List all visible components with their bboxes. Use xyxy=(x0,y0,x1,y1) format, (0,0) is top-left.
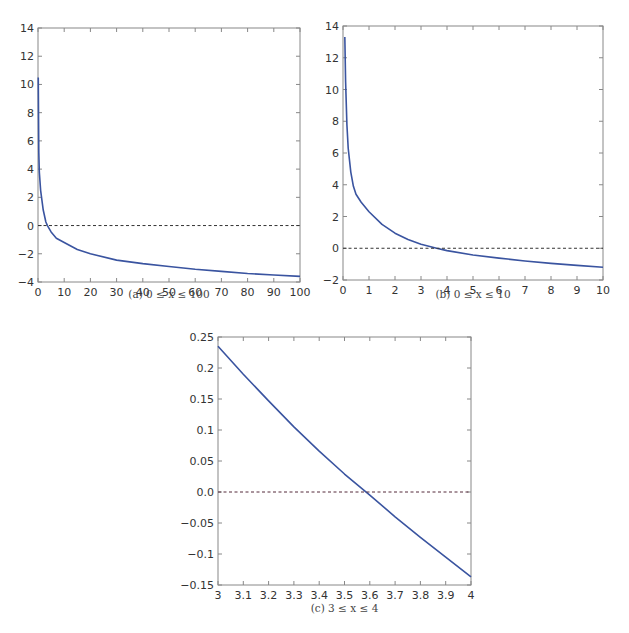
panel-a: 0102030405060708090100 −4−202468101214 (… xyxy=(18,22,311,300)
y-tick-label: −2 xyxy=(18,248,34,261)
x-tick-label: 1 xyxy=(366,284,373,297)
figure-canvas: 0102030405060708090100 −4−202468101214 (… xyxy=(0,0,629,633)
x-tick-label: 0 xyxy=(340,284,347,297)
y-tick-labels-c: −0.15−0.1−0.050.00.050.10.150.20.25 xyxy=(180,331,214,592)
x-tick-label: 8 xyxy=(548,284,555,297)
y-tick-label: 0.2 xyxy=(197,362,215,375)
x-tick-label: 3.5 xyxy=(336,589,354,602)
y-tick-label: −0.1 xyxy=(187,548,214,561)
function-curve xyxy=(218,346,471,577)
y-tick-label: −0.05 xyxy=(180,517,214,530)
plot-frame-a xyxy=(38,28,300,282)
function-curve xyxy=(38,77,300,276)
caption-a: (a) 0 ≤ x ≤ 100 xyxy=(128,288,209,300)
y-tick-label: −4 xyxy=(18,276,34,289)
y-tick-label: −0.15 xyxy=(180,579,214,592)
caption-b: (b) 0 ≤ x ≤ 10 xyxy=(435,288,510,300)
panel-c: 33.13.23.33.43.53.63.73.83.94 −0.15−0.1−… xyxy=(180,331,474,614)
x-tick-label: 3.1 xyxy=(235,589,253,602)
series-b xyxy=(343,37,603,267)
x-tick-label: 3.4 xyxy=(310,589,328,602)
plot-frame-b xyxy=(343,26,603,280)
x-tick-label: 80 xyxy=(241,286,255,299)
x-tick-labels-c: 33.13.23.33.43.53.63.73.83.94 xyxy=(215,589,475,602)
x-tick-label: 3 xyxy=(215,589,222,602)
x-tick-label: 90 xyxy=(267,286,281,299)
x-tick-label: 9 xyxy=(574,284,581,297)
y-tick-label: 2 xyxy=(27,191,34,204)
caption-c: (c) 3 ≤ x ≤ 4 xyxy=(311,602,379,614)
x-tick-label: 3.2 xyxy=(260,589,278,602)
ticks-b xyxy=(343,26,603,280)
x-tick-label: 3.7 xyxy=(386,589,404,602)
y-tick-label: 4 xyxy=(27,163,34,176)
y-tick-label: 0.0 xyxy=(197,486,215,499)
x-tick-label: 3.3 xyxy=(285,589,303,602)
y-tick-label: −2 xyxy=(323,274,339,287)
y-tick-label: 10 xyxy=(20,78,34,91)
y-tick-label: 4 xyxy=(332,179,339,192)
y-tick-label: 14 xyxy=(325,20,339,33)
x-tick-label: 4 xyxy=(468,589,475,602)
y-tick-label: 14 xyxy=(20,22,34,35)
y-tick-label: 12 xyxy=(20,50,34,63)
y-tick-label: 2 xyxy=(332,211,339,224)
y-tick-label: 0.15 xyxy=(190,393,215,406)
y-tick-labels-b: −202468101214 xyxy=(323,20,339,287)
y-tick-label: 0 xyxy=(332,242,339,255)
series-c xyxy=(218,346,471,577)
x-tick-label: 70 xyxy=(214,286,228,299)
x-tick-label: 3 xyxy=(418,284,425,297)
y-tick-label: 8 xyxy=(332,115,339,128)
y-tick-label: 0.1 xyxy=(197,424,215,437)
y-tick-labels-a: −4−202468101214 xyxy=(18,22,34,289)
y-tick-label: 0.25 xyxy=(190,331,215,344)
x-tick-label: 30 xyxy=(110,286,124,299)
x-tick-label: 10 xyxy=(57,286,71,299)
y-tick-label: 8 xyxy=(27,107,34,120)
x-tick-label: 20 xyxy=(83,286,97,299)
x-tick-label: 7 xyxy=(522,284,529,297)
series-a xyxy=(38,77,300,276)
panel-b: 012345678910 −202468101214 (b) 0 ≤ x ≤ 1… xyxy=(323,20,610,300)
y-tick-label: 0.05 xyxy=(190,455,215,468)
x-tick-label: 2 xyxy=(392,284,399,297)
x-tick-label: 0 xyxy=(35,286,42,299)
y-tick-label: 6 xyxy=(332,147,339,160)
y-tick-label: 0 xyxy=(27,220,34,233)
x-tick-label: 3.6 xyxy=(361,589,379,602)
x-tick-label: 100 xyxy=(290,286,311,299)
y-tick-label: 10 xyxy=(325,84,339,97)
x-tick-label: 10 xyxy=(596,284,610,297)
x-tick-label: 3.8 xyxy=(412,589,430,602)
y-tick-label: 12 xyxy=(325,52,339,65)
y-tick-label: 6 xyxy=(27,135,34,148)
x-tick-label: 3.9 xyxy=(437,589,455,602)
function-curve xyxy=(345,37,603,267)
ticks-a xyxy=(38,28,300,282)
